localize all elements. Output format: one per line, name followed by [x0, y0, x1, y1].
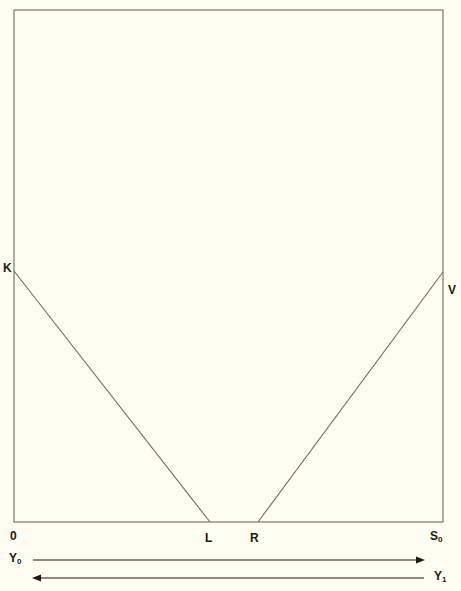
axis-label-y1: Y1	[434, 570, 446, 582]
vertex-label-r: R	[250, 532, 259, 544]
vertex-label-s0: S0	[430, 530, 442, 542]
vertex-label-s0-base: S	[430, 529, 438, 543]
arrowhead-right-icon	[416, 556, 425, 563]
arrowhead-left-icon	[32, 574, 41, 581]
origin-label: 0	[10, 530, 17, 542]
bounding-rectangle	[14, 10, 443, 522]
vertex-label-v: V	[448, 284, 456, 296]
vertex-label-s0-subscript: 0	[438, 535, 442, 544]
axis-label-y0: Y0	[9, 552, 21, 564]
axis-label-y1-base: Y	[434, 569, 442, 583]
figure-canvas	[0, 0, 461, 591]
segment-rv	[258, 272, 443, 522]
vertex-label-k: K	[3, 262, 12, 274]
vertex-label-l: L	[205, 532, 212, 544]
axis-label-y1-subscript: 1	[442, 575, 446, 584]
axis-label-y0-base: Y	[9, 551, 17, 565]
axis-label-y0-subscript: 0	[17, 557, 21, 566]
segment-kl	[14, 271, 210, 522]
diagram-page: K V L R 0 S0 Y0 Y1	[0, 0, 461, 591]
